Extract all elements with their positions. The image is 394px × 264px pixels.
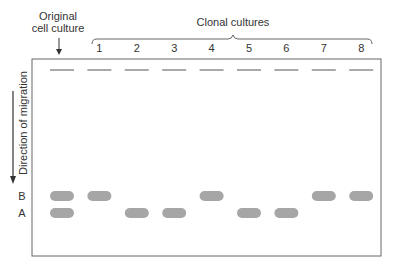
band-b	[312, 191, 336, 201]
band-b	[349, 191, 373, 201]
lane-number: 8	[358, 42, 364, 54]
band-a	[162, 208, 186, 218]
band-label-b: B	[18, 190, 25, 202]
band-a	[50, 208, 74, 218]
band-a	[274, 208, 298, 218]
lane-number: 5	[246, 42, 252, 54]
lane-2: 2	[125, 42, 149, 218]
lane-5: 5	[237, 42, 261, 218]
lane-4: 4	[200, 42, 224, 201]
lane-number: 1	[96, 42, 102, 54]
gel-frame	[32, 59, 381, 256]
band-a	[125, 208, 149, 218]
lane-8: 8	[349, 42, 373, 201]
lane-number: 7	[321, 42, 327, 54]
direction-of-migration-label: Direction of migration	[17, 71, 29, 175]
lane-number: 3	[171, 42, 177, 54]
lane-number: 2	[134, 42, 140, 54]
lane-1: 1	[87, 42, 111, 201]
band-label-a: A	[18, 207, 26, 219]
lane-3: 3	[162, 42, 186, 218]
original-culture-label-line1: Original	[39, 10, 77, 22]
lane-number: 4	[209, 42, 215, 54]
gel-diagram: Original cell culture Clonal cultures Di…	[0, 0, 394, 264]
original-culture-label-line2: cell culture	[32, 22, 85, 34]
migration-arrow-icon	[10, 91, 16, 184]
lane-number: 6	[283, 42, 289, 54]
lane-original	[50, 70, 74, 218]
lane-7: 7	[312, 42, 336, 201]
down-arrow-icon	[56, 38, 62, 55]
band-a	[237, 208, 261, 218]
lane-6: 6	[274, 42, 298, 218]
band-b	[200, 191, 224, 201]
band-b	[87, 191, 111, 201]
band-b	[50, 191, 74, 201]
clonal-cultures-label: Clonal cultures	[197, 16, 270, 28]
